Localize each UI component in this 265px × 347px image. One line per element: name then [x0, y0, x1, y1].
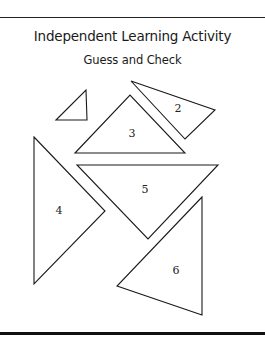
triangle-label: 4 [56, 204, 63, 217]
triangle-label: 5 [142, 183, 149, 196]
bottom-rule [0, 332, 265, 335]
triangle-label: 3 [129, 127, 136, 140]
triangle-shape [117, 197, 202, 315]
triangle-1 [56, 90, 87, 120]
worksheet-page: Independent Learning Activity Guess and … [0, 0, 265, 347]
triangle-figure: 2 3 4 5 6 [0, 0, 265, 347]
triangle-label: 2 [175, 102, 182, 115]
triangle-4: 4 [34, 137, 105, 284]
triangle-shape [56, 90, 87, 120]
triangle-label: 6 [173, 264, 180, 277]
triangle-shape [75, 95, 185, 153]
triangle-6: 6 [117, 197, 202, 315]
triangle-3: 3 [75, 95, 185, 153]
triangle-shape [34, 137, 105, 284]
